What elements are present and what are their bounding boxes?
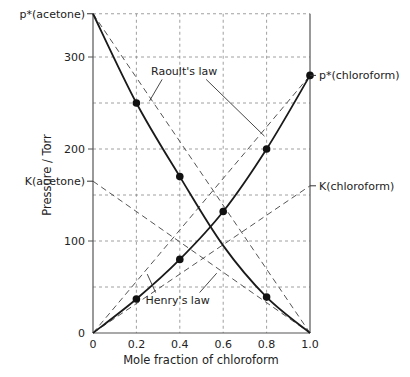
data-point	[176, 256, 184, 264]
y-axis-label: Pressure / Torr	[40, 134, 54, 216]
annotation-pointer	[206, 79, 264, 136]
series-line-henry-s-law-chloroform	[93, 186, 310, 333]
data-point	[176, 173, 184, 181]
y-tick-label: 200	[64, 143, 85, 156]
annotation-raoult-s-law: Raoult's law	[151, 65, 217, 78]
y-tick-label: 100	[64, 235, 85, 248]
vapour-pressure-chart: 00.20.40.60.81.00100200300 p*(acetone)K(…	[0, 0, 410, 377]
ideal-law-lines	[93, 14, 310, 333]
x-tick-label: 0.6	[214, 338, 232, 351]
data-point	[219, 208, 227, 216]
annotation-k-chloroform: K(chloroform)	[319, 180, 394, 193]
annotation-pointer	[200, 273, 217, 292]
x-tick-label: 0.8	[258, 338, 276, 351]
annotation-p-acetone: p*(acetone)	[20, 8, 85, 21]
data-point	[263, 145, 271, 153]
x-tick-label: 0.4	[171, 338, 189, 351]
y-tick-label: 300	[64, 51, 85, 64]
y-tick-label: 0	[78, 327, 85, 340]
x-tick-label: 1.0	[301, 338, 319, 351]
annotation-henry-s-law: Henry's law	[146, 294, 210, 307]
series-line-henry-s-law-acetone	[93, 181, 310, 333]
x-axis-label: Mole fraction of chloroform	[123, 353, 279, 367]
annotation-pointer	[149, 79, 162, 101]
x-tick-label: 0.2	[128, 338, 146, 351]
data-point	[133, 99, 141, 107]
series-line-raoult-s-law-acetone	[93, 14, 310, 333]
data-point	[133, 295, 141, 303]
data-point	[263, 293, 271, 301]
annotation-k-acetone: K(acetone)	[25, 175, 85, 188]
annotation-p-chloroform: p*(chloroform)	[319, 69, 400, 82]
x-tick-label: 0	[90, 338, 97, 351]
